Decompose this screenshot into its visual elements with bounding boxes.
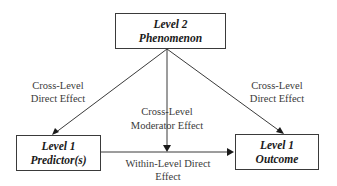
arrowhead-predictor [52,128,59,135]
label-left-line1: Cross-Level [32,80,83,91]
node-predictor-line1: Level 1 [40,140,75,152]
label-right-line2: Direct Effect [250,93,304,104]
arrowhead-outcome [276,127,284,134]
label-moderator-line2: Moderator Effect [131,120,203,131]
node-outcome-line1: Level 1 [259,139,294,151]
node-level2-phenomenon: Level 2 Phenomenon [116,14,226,49]
node-outcome-line2: Outcome [256,153,299,165]
multilevel-diagram: Level 2 Phenomenon Level 1 Predictor(s) … [0,0,337,186]
label-within-line1: Within-Level Direct [126,158,211,169]
node-predictor-line2: Predictor(s) [30,154,86,167]
label-right-line1: Cross-Level [251,80,302,91]
node-level2-line1: Level 2 [152,18,187,30]
arrowhead-within [227,148,234,156]
arrowhead-moderator [163,145,171,152]
node-level1-predictors: Level 1 Predictor(s) [17,136,101,171]
label-left-line2: Direct Effect [31,93,85,104]
label-within-line2: Effect [155,171,181,182]
node-level1-outcome: Level 1 Outcome [236,135,319,170]
label-moderator-line1: Cross-Level [141,106,192,117]
node-level2-line2: Phenomenon [139,32,202,44]
